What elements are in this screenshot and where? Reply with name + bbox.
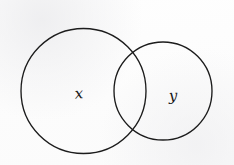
circle-set-y <box>114 42 212 140</box>
set-label-x: x <box>74 86 83 102</box>
diagram-canvas: x y <box>0 0 234 165</box>
circle-set-x <box>21 29 146 154</box>
set-label-y: y <box>168 88 177 103</box>
venn-diagram-svg <box>0 0 234 165</box>
